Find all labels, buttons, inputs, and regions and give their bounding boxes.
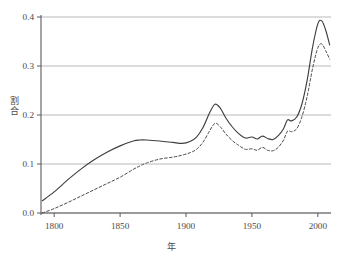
x-tick-label-1800: 1800	[45, 221, 64, 231]
y-axis-label-char-2: 合	[8, 107, 21, 117]
x-axis-label: 年	[0, 240, 343, 253]
y-tick-label-0.2: 0.2	[23, 110, 35, 120]
line-chart-plot: 0.00.10.20.30.4 18001850190019502000	[0, 0, 343, 257]
y-tick-label-0.4: 0.4	[23, 12, 35, 22]
x-tick-label-2000: 2000	[309, 221, 328, 231]
y-tick-label-0.0: 0.0	[23, 208, 35, 218]
chart-background	[0, 0, 343, 257]
y-tick-label-0.3: 0.3	[23, 61, 35, 71]
y-axis-label: 割 合	[8, 97, 21, 116]
chart-container: 0.00.10.20.30.4 18001850190019502000 割 合…	[0, 0, 343, 257]
x-tick-label-1950: 1950	[243, 221, 262, 231]
x-tick-label-1900: 1900	[177, 221, 196, 231]
x-tick-label-1850: 1850	[111, 221, 130, 231]
y-tick-label-0.1: 0.1	[23, 159, 35, 169]
